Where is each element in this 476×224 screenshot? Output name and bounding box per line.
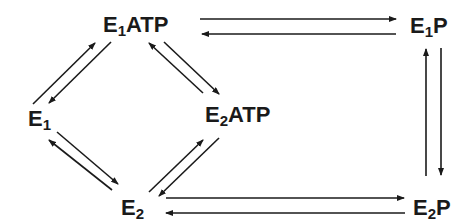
node-e1p-subscript: 1 [425, 23, 433, 40]
node-e2-base: E [121, 195, 136, 220]
node-e1p-base: E [410, 13, 425, 38]
node-e1atp: E1ATP [103, 14, 168, 36]
node-e2p-base: E [413, 195, 428, 220]
node-e1atp-subscript: 1 [118, 22, 126, 39]
node-e2p: E2P [413, 197, 451, 219]
arrow-e2atp-to-e2 [159, 138, 219, 196]
arrow-e1atp-to-e2atp [164, 42, 219, 94]
node-e1atp-base: E [103, 12, 118, 37]
node-e2atp: E2ATP [205, 104, 270, 126]
arrow-e1-to-e1atp [33, 43, 95, 104]
node-e2p-suffix: P [436, 195, 451, 220]
arrow-e2-to-e2atp [149, 140, 203, 192]
node-e1p-suffix: P [433, 13, 448, 38]
node-e2atp-base: E [205, 102, 220, 127]
node-e2-subscript: 2 [136, 205, 144, 222]
node-e1p: E1P [410, 15, 448, 37]
node-e2atp-suffix: ATP [228, 102, 270, 127]
arrow-e2atp-to-e1atp [149, 43, 203, 93]
arrow-e1atp-to-e1 [49, 42, 111, 103]
node-e2atp-subscript: 2 [220, 112, 228, 129]
node-e1-subscript: 1 [43, 116, 51, 133]
arrow-e1-to-e2 [57, 132, 118, 184]
node-e1atp-suffix: ATP [126, 12, 168, 37]
node-e1-base: E [28, 106, 43, 131]
arrow-e2-to-e1 [49, 140, 112, 190]
node-e2p-subscript: 2 [428, 205, 436, 222]
node-e1: E1 [28, 108, 51, 130]
node-e2: E2 [121, 197, 144, 219]
